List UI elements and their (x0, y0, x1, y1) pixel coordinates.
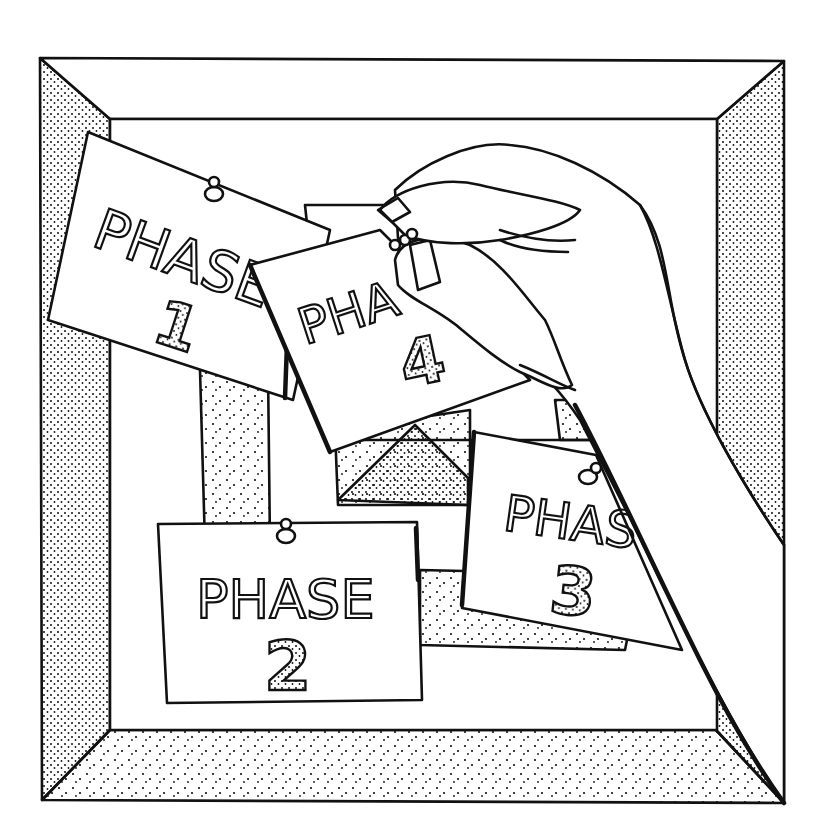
card-phase-3-number: 3 (546, 551, 600, 632)
frame-bottom-side (42, 730, 784, 803)
bg-paper-left (200, 370, 270, 545)
card-phase-2-word: PHASE (196, 568, 375, 631)
bulletin-board-illustration: PHASE 1 PHA 4 PHASE 2 PHAS 3 (0, 0, 822, 838)
card-phase-2-number: 2 (264, 627, 311, 706)
card-phase-2: PHASE 2 (158, 519, 422, 706)
frame-top-side (40, 58, 784, 119)
